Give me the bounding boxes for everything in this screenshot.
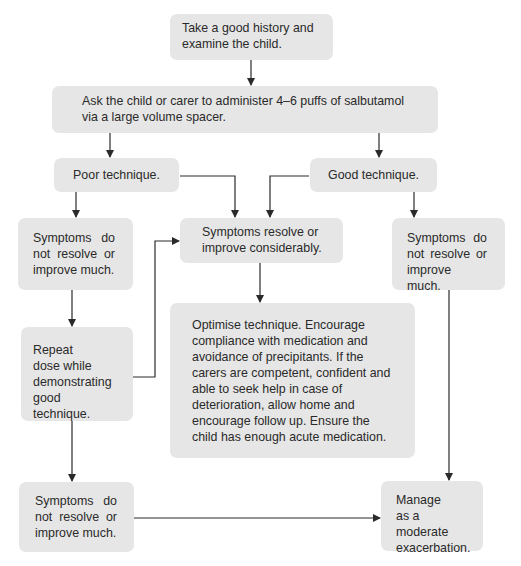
clipped-caption xyxy=(150,559,390,566)
node-administer: Ask the child or carer to administer 4–6… xyxy=(52,86,438,133)
node-repeat-dose: Repeat dose while demonstrating good tec… xyxy=(21,327,133,421)
node-no-improve-left: Symptoms do not resolve or improve much. xyxy=(18,218,133,290)
node-poor-technique: Poor technique. xyxy=(54,158,179,192)
node-poor-technique-text: Poor technique. xyxy=(54,167,179,183)
node-optimise: Optimise technique. Encourage compliance… xyxy=(170,303,415,458)
node-no-improve-right: Symptoms do not resolve or improve much. xyxy=(392,218,505,290)
node-resolve-text: Symptoms resolve or improve considerably… xyxy=(202,224,332,256)
node-no-improve-left-text: Symptoms do not resolve or improve much. xyxy=(33,230,115,278)
node-no-improve-bottom-text: Symptoms do not resolve or improve much. xyxy=(35,493,117,541)
node-moderate: Manage as a moderate exacerbation. xyxy=(381,481,483,551)
node-resolve: Symptoms resolve or improve considerably… xyxy=(180,218,343,263)
node-no-improve-right-text: Symptoms do not resolve or improve much. xyxy=(407,230,487,294)
node-administer-text: Ask the child or carer to administer 4–6… xyxy=(82,93,422,125)
node-moderate-text: Manage as a moderate exacerbation. xyxy=(396,492,456,556)
node-repeat-dose-text: Repeat dose while demonstrating good tec… xyxy=(33,342,93,422)
node-no-improve-bottom: Symptoms do not resolve or improve much. xyxy=(19,482,134,552)
node-optimise-text: Optimise technique. Encourage compliance… xyxy=(192,317,392,445)
node-good-technique-text: Good technique. xyxy=(310,167,437,183)
node-history-text: Take a good history and examine the chil… xyxy=(182,20,327,52)
node-good-technique: Good technique. xyxy=(310,158,437,192)
node-history: Take a good history and examine the chil… xyxy=(170,14,333,60)
